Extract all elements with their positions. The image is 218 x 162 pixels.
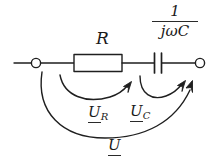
voltage-label-uc: UC [130,103,150,121]
voltage-label-ur-base: U [88,103,101,123]
resistor-label: R [96,30,109,47]
voltage-label-ur: UR [88,104,108,122]
arrowhead-uc-icon [178,81,186,92]
circuit-diagram: R 1 jωC UR UC U [0,0,218,162]
voltage-label-uc-subscript: C [143,110,151,121]
voltage-label-u-total: U [108,137,121,153]
voltage-arc-uc [140,76,186,98]
right-terminal-icon [195,58,204,67]
voltage-arc-u [41,72,192,138]
capacitor-impedance-denominator: jωC [146,24,204,39]
voltage-label-uc-base: U [130,102,143,122]
capacitor-impedance-label: 1 jωC [146,4,204,39]
voltage-label-ur-subscript: R [101,111,109,122]
resistor-icon [74,55,122,72]
left-terminal-icon [31,58,40,67]
capacitor-impedance-numerator: 1 [146,4,204,20]
arrowhead-ur-icon [124,82,132,93]
voltage-arc-ur [60,75,132,99]
voltage-label-u-total-base: U [108,136,121,156]
circuit-wires [14,53,205,73]
